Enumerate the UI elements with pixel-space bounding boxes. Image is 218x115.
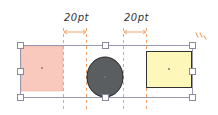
spacing-label-left: 20pt [64, 12, 89, 23]
spacing-label-right: 20pt [124, 12, 149, 23]
spacing-arrows [64, 30, 146, 34]
diagram-canvas [0, 0, 218, 115]
sparkle-icon [196, 33, 206, 39]
